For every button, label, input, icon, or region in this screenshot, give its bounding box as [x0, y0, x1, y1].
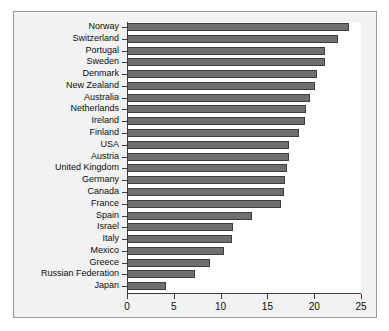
x-axis-tick [127, 294, 128, 299]
category-label: New Zealand [7, 81, 119, 90]
category-label-row: Norway [0, 22, 119, 33]
category-tick [122, 204, 127, 205]
category-label-row: Canada [0, 187, 119, 198]
x-axis-label: 10 [206, 301, 236, 312]
category-label-row: Ireland [0, 116, 119, 127]
category-label: Norway [7, 22, 119, 31]
category-label-row: Italy [0, 234, 119, 245]
category-label: Italy [7, 234, 119, 243]
category-label: Ireland [7, 116, 119, 125]
category-label-row: New Zealand [0, 81, 119, 92]
category-label-row: Portugal [0, 46, 119, 57]
category-label: Switzerland [7, 34, 119, 43]
category-label-row: Denmark [0, 69, 119, 80]
category-tick [122, 168, 127, 169]
category-tick [122, 145, 127, 146]
bar [127, 282, 166, 290]
category-label: Finland [7, 128, 119, 137]
category-label-row: Australia [0, 93, 119, 104]
category-tick [122, 109, 127, 110]
category-label-row: France [0, 199, 119, 210]
category-tick [122, 133, 127, 134]
bar [127, 270, 195, 278]
category-label: France [7, 199, 119, 208]
category-label-row: Spain [0, 211, 119, 222]
category-label-row: Netherlands [0, 104, 119, 115]
x-axis-tick [267, 294, 268, 299]
category-label: Canada [7, 187, 119, 196]
category-label-row: Japan [0, 281, 119, 292]
category-tick [122, 51, 127, 52]
category-label-row: Israel [0, 222, 119, 233]
x-axis-label: 25 [346, 301, 376, 312]
category-tick [122, 216, 127, 217]
category-label: Portugal [7, 46, 119, 55]
category-tick [122, 157, 127, 158]
category-tick [122, 227, 127, 228]
category-label-row: Germany [0, 175, 119, 186]
bar [127, 129, 299, 137]
x-axis-tick [221, 294, 222, 299]
x-axis-label: 20 [299, 301, 329, 312]
bar [127, 105, 306, 113]
category-tick [122, 39, 127, 40]
category-label: Australia [7, 93, 119, 102]
bar [127, 188, 284, 196]
category-label-row: Russian Federation [0, 269, 119, 280]
category-label-row: United Kingdom [0, 163, 119, 174]
bar [127, 70, 317, 78]
category-label: Greece [7, 258, 119, 267]
category-tick [122, 180, 127, 181]
category-tick [122, 192, 127, 193]
category-label-row: Greece [0, 258, 119, 269]
bar [127, 212, 252, 220]
x-axis-line [127, 293, 361, 294]
bar [127, 164, 287, 172]
bar [127, 235, 232, 243]
category-tick [122, 251, 127, 252]
category-tick [122, 263, 127, 264]
bar [127, 141, 289, 149]
category-tick [122, 286, 127, 287]
category-label: United Kingdom [7, 163, 119, 172]
bar [127, 35, 338, 43]
category-label: Mexico [7, 246, 119, 255]
category-tick [122, 274, 127, 275]
chart-figure: NorwaySwitzerlandPortugalSwedenDenmarkNe… [0, 0, 389, 331]
category-label: Israel [7, 222, 119, 231]
category-label: Russian Federation [7, 269, 119, 278]
category-label-row: Mexico [0, 246, 119, 257]
category-label-row: Switzerland [0, 34, 119, 45]
bar [127, 47, 325, 55]
category-label-row: Sweden [0, 57, 119, 68]
category-tick [122, 27, 127, 28]
category-label: Japan [7, 281, 119, 290]
category-label: Denmark [7, 69, 119, 78]
x-axis-label: 5 [159, 301, 189, 312]
category-tick [122, 86, 127, 87]
category-label: Germany [7, 175, 119, 184]
bar [127, 176, 285, 184]
x-axis-tick [174, 294, 175, 299]
category-label-row: Finland [0, 128, 119, 139]
category-label: Spain [7, 211, 119, 220]
category-tick [122, 98, 127, 99]
bar [127, 58, 325, 66]
category-label-row: USA [0, 140, 119, 151]
bar [127, 247, 224, 255]
bar [127, 82, 315, 90]
category-tick [122, 62, 127, 63]
category-tick [122, 121, 127, 122]
category-tick [122, 239, 127, 240]
x-axis-tick [314, 294, 315, 299]
category-label: Austria [7, 152, 119, 161]
x-axis-label: 15 [252, 301, 282, 312]
x-axis-tick [361, 294, 362, 299]
x-axis-label: 0 [112, 301, 142, 312]
bar [127, 23, 349, 31]
bar [127, 200, 281, 208]
category-label: Sweden [7, 57, 119, 66]
category-tick [122, 74, 127, 75]
bar [127, 153, 289, 161]
bar [127, 94, 310, 102]
